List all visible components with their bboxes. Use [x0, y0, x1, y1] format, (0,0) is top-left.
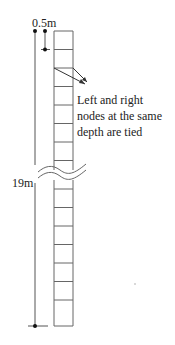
mesh-column-upper [54, 31, 73, 170]
tie-note-line-3: depth are tied [77, 125, 142, 139]
depth-bottom-dot [33, 324, 37, 328]
mesh-column-lower [54, 180, 73, 326]
width-dimension [41, 31, 50, 50]
faint-dot [134, 283, 136, 285]
break-symbol [38, 164, 86, 179]
depth-label: 19m [12, 176, 33, 190]
tie-note-line-2: nodes at the same [77, 109, 162, 123]
width-label: 0.5m [32, 16, 56, 30]
width-bottom-dot [43, 48, 47, 52]
soil-column-diagram [0, 0, 175, 345]
tie-note-line-1: Left and right [77, 93, 143, 107]
